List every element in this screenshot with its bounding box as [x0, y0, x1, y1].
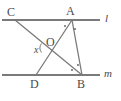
angle-mark-A-left — [64, 25, 66, 27]
angle-mark-A-right — [74, 28, 76, 30]
geometry-canvas — [0, 0, 121, 101]
angle-arc-x — [40, 43, 41, 52]
point-label-d: D — [30, 78, 39, 90]
angle-label-x: x — [34, 45, 38, 55]
point-label-c: C — [7, 6, 15, 18]
segment-a-b — [72, 20, 82, 75]
angle-mark-B-right — [77, 64, 79, 66]
line-label-m: m — [104, 68, 112, 79]
point-label-o: O — [46, 36, 55, 48]
point-label-a: A — [66, 5, 75, 17]
geometry-figure: C A D B O l m x — [0, 0, 121, 101]
angle-mark-B-left — [71, 69, 73, 71]
line-label-l: l — [105, 13, 108, 24]
point-label-b: B — [77, 78, 85, 90]
